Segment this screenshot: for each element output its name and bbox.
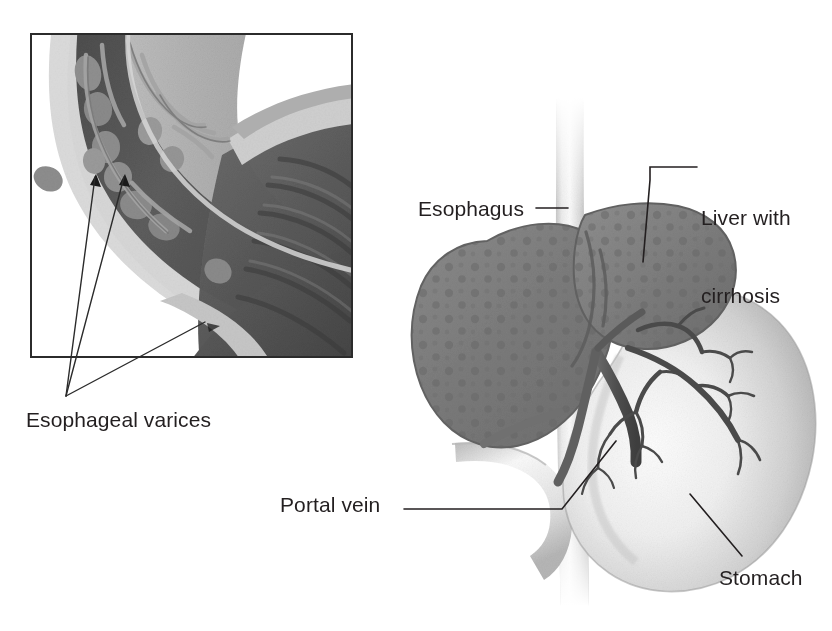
label-liver-with-cirrhosis: Liver with cirrhosis [701,153,791,361]
label-esophageal-varices: Esophageal varices [26,407,211,433]
medical-illustration-figure: Esophageal varices Esophagus Liver with … [0,0,832,631]
label-liver-line-1: Liver with [701,205,791,231]
label-stomach: Stomach [719,565,803,591]
duodenum [452,442,572,580]
label-esophagus: Esophagus [418,196,524,222]
label-liver-line-2: cirrhosis [701,283,791,309]
label-portal-vein: Portal vein [280,492,380,518]
varices-leader-lines [66,177,205,396]
